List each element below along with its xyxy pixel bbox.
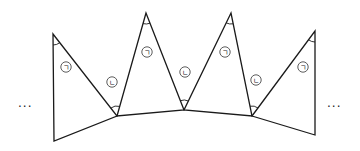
- angle-arc-nieun: [111, 106, 120, 108]
- angle-arc-giyeok: [226, 23, 233, 24]
- label-nieun-1: ㄴ: [107, 77, 117, 87]
- svg-text:ㄴ: ㄴ: [253, 77, 259, 85]
- svg-text:ㄴ: ㄴ: [182, 69, 188, 77]
- label-giyeok-4: ㄱ: [298, 62, 308, 72]
- triangle-chain-diagram: ㄱㄱㄱㄱㄴㄴㄴ ··· ···: [0, 0, 360, 151]
- angle-arc-nieun: [250, 106, 258, 108]
- angle-arc-giyeok: [53, 43, 60, 45]
- triangle-3: [184, 13, 252, 116]
- label-giyeok-2: ㄱ: [142, 47, 152, 57]
- ellipsis-left: ···: [18, 100, 32, 114]
- angle-labels: ㄱㄱㄱㄱㄴㄴㄴ: [61, 47, 308, 87]
- label-nieun-2: ㄴ: [180, 67, 190, 77]
- svg-text:ㄴ: ㄴ: [109, 79, 115, 87]
- triangle-2: [117, 13, 184, 116]
- triangle-1: [53, 34, 117, 141]
- label-giyeok-3: ㄱ: [220, 47, 230, 57]
- label-nieun-3: ㄴ: [251, 75, 261, 85]
- svg-text:ㄱ: ㄱ: [63, 64, 69, 72]
- ellipsis-right: ···: [327, 100, 341, 114]
- angle-arc-giyeok: [143, 23, 150, 24]
- svg-text:ㄱ: ㄱ: [300, 64, 306, 72]
- angle-arc-nieun: [180, 100, 188, 101]
- label-giyeok-1: ㄱ: [61, 62, 71, 72]
- svg-text:ㄱ: ㄱ: [144, 49, 150, 57]
- angle-arcs: [53, 23, 315, 108]
- triangle-4: [252, 31, 315, 135]
- angle-arc-giyeok: [309, 40, 316, 42]
- svg-text:ㄱ: ㄱ: [222, 49, 228, 57]
